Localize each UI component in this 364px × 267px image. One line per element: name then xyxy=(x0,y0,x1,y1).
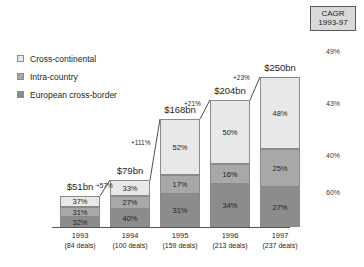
bar-segment-label-1996-european-cross-border: 34% xyxy=(222,201,237,210)
bar-segment-label-1993-intra-country: 31% xyxy=(72,208,87,217)
bar-1997: 48% 25% 27% xyxy=(260,77,300,227)
cagr-header-box: CAGR 1993-97 xyxy=(310,6,356,31)
bar-1994: 33% 27% 40% xyxy=(110,180,150,227)
cagr-value-intra-country: 40% xyxy=(310,152,356,159)
bar-segment-1993-intra-country: 31% xyxy=(60,207,100,217)
growth-label-1994-1995: +111% xyxy=(131,139,150,146)
bar-segment-1997-intra-country: 25% xyxy=(260,149,300,187)
growth-label-1995-1996: +21% xyxy=(184,100,201,107)
bar-segment-1994-cross-continental: 33% xyxy=(110,180,150,196)
bar-segment-1993-european-cross-border: 32% xyxy=(60,217,100,227)
bar-segment-1996-intra-country: 16% xyxy=(210,164,250,184)
bar-segment-label-1996-intra-country: 16% xyxy=(222,170,237,179)
bar-1996: 50% 16% 34% xyxy=(210,100,250,227)
bar-segment-label-1993-european-cross-border: 32% xyxy=(72,218,87,227)
x-axis-line xyxy=(52,227,290,228)
cagr-value-european-cross-border: 60% xyxy=(310,189,356,196)
bar-segment-label-1995-european-cross-border: 31% xyxy=(172,206,187,215)
x-tick-year-1997: 1997 xyxy=(245,231,315,241)
bar-segment-1995-intra-country: 17% xyxy=(160,175,200,194)
bar-segment-1993-cross-continental: 37% xyxy=(60,196,100,207)
bar-segment-1995-cross-continental: 52% xyxy=(160,119,200,175)
bar-segment-label-1994-cross-continental: 33% xyxy=(122,184,137,193)
bar-segment-1994-intra-country: 27% xyxy=(110,196,150,209)
bar-segment-1996-cross-continental: 50% xyxy=(210,100,250,164)
x-tick-1997: 1997 (237 deals) xyxy=(245,231,315,251)
growth-label-1996-1997: +23% xyxy=(233,74,250,81)
plot-area: 37% 31% 32% $51bn 33% 27% 40% $79bn xyxy=(0,0,310,267)
x-tick-deals-1997: (237 deals) xyxy=(245,241,315,250)
bar-total-label-1996: $204bn xyxy=(200,85,260,96)
cagr-header-line2: 1993-97 xyxy=(318,19,347,27)
chart-canvas: CAGR 1993-97 49% 43% 40% 60% Cross-conti… xyxy=(0,0,364,267)
bar-segment-1994-european-cross-border: 40% xyxy=(110,209,150,227)
bar-segment-label-1997-intra-country: 25% xyxy=(272,164,287,173)
bar-segment-label-1997-european-cross-border: 27% xyxy=(272,203,287,212)
bar-segment-label-1997-cross-continental: 48% xyxy=(272,109,287,118)
bar-total-label-1997: $250bn xyxy=(250,62,310,73)
bar-segment-1996-european-cross-border: 34% xyxy=(210,184,250,227)
cagr-value-cross-continental: 49% xyxy=(310,48,356,55)
bar-segment-1997-cross-continental: 48% xyxy=(260,77,300,149)
bar-segment-1995-european-cross-border: 31% xyxy=(160,194,200,227)
bar-1993: 37% 31% 32% xyxy=(60,196,100,227)
bar-segment-1997-european-cross-border: 27% xyxy=(260,187,300,227)
bar-segment-label-1993-cross-continental: 37% xyxy=(72,197,87,206)
bar-segment-label-1994-intra-country: 27% xyxy=(122,198,137,207)
bar-total-label-1995: $168bn xyxy=(150,104,210,115)
bar-total-label-1994: $79bn xyxy=(100,165,160,176)
bar-segment-label-1994-european-cross-border: 40% xyxy=(122,214,137,223)
bar-segment-label-1996-cross-continental: 50% xyxy=(222,128,237,137)
bar-segment-label-1995-intra-country: 17% xyxy=(172,180,187,189)
bar-1995: 52% 17% 31% xyxy=(160,119,200,227)
cagr-value-total: 43% xyxy=(310,100,356,107)
growth-label-1993-1994: +57% xyxy=(96,182,113,189)
bar-segment-label-1995-cross-continental: 52% xyxy=(172,143,187,152)
